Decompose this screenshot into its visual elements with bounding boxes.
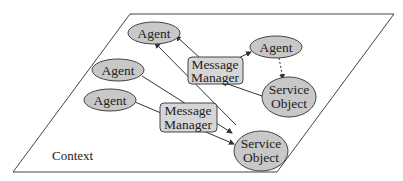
node-label: Message [164, 103, 211, 118]
node-service-object-1: Service Object [262, 77, 316, 117]
node-agent-2: Agent [250, 36, 302, 58]
node-message-manager-2: Message Manager [160, 103, 217, 132]
node-agent-3: Agent [92, 59, 144, 81]
node-agent-4: Agent [84, 89, 136, 111]
node-label: Object [271, 96, 307, 111]
node-message-manager-1: Message Manager [188, 57, 243, 85]
node-label: Agent [260, 40, 293, 55]
node-label: Service [241, 136, 281, 151]
node-label: Manager [164, 117, 212, 132]
node-label: Object [243, 150, 279, 165]
context-diagram: Context Agent Agent Agent Agent Message [0, 0, 403, 181]
node-label: Agent [94, 93, 127, 108]
context-label: Context [52, 148, 94, 163]
node-agent-1: Agent [128, 22, 180, 44]
node-label: Agent [102, 63, 135, 78]
node-service-object-2: Service Object [234, 131, 288, 171]
node-label: Service [269, 82, 309, 97]
node-label: Agent [138, 26, 171, 41]
node-label: Manager [191, 70, 239, 85]
